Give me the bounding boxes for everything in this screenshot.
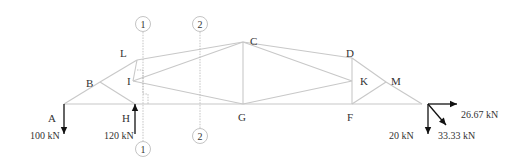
reaction-H-label: 120 kN: [104, 130, 134, 141]
member-I-G: [133, 81, 243, 104]
truss-diagram: 1122 100 kN120 kN33.33 kN26.67 kN20 kN A…: [0, 0, 528, 159]
node-label-M: M: [391, 75, 401, 87]
member-C-K: [243, 42, 352, 81]
node-label-H: H: [122, 112, 130, 124]
member-B-L: [100, 60, 137, 82]
node-label-B: B: [86, 77, 93, 89]
node-label-F: F: [347, 111, 353, 123]
node-label-A: A: [48, 112, 56, 124]
member-F-M: [352, 82, 386, 104]
member-C-D: [243, 42, 352, 58]
member-D-M: [352, 58, 386, 82]
section-label: 2: [198, 131, 203, 142]
node-label-D: D: [346, 47, 354, 59]
node-label-K: K: [360, 75, 368, 87]
member-I-C: [133, 42, 243, 81]
section-label: 1: [141, 144, 146, 155]
load-R-horizontal-label: 26.67 kN: [461, 109, 498, 120]
node-label-I: I: [127, 75, 131, 87]
section-cuts: 1122: [136, 17, 208, 157]
load-A-label: 100 kN: [30, 130, 60, 141]
truss-members: [64, 42, 422, 104]
node-label-G: G: [238, 111, 246, 123]
arrowhead-icon: [425, 127, 431, 134]
arrowhead-icon: [450, 101, 457, 107]
member-L-I: [133, 60, 137, 81]
member-G-K: [243, 81, 352, 104]
section-label: 2: [198, 19, 203, 30]
arrowhead-icon: [61, 127, 67, 134]
member-A-B: [64, 82, 100, 104]
section-label: 1: [141, 19, 146, 30]
section-cut-helper: [137, 70, 148, 104]
member-L-C: [137, 42, 243, 60]
node-label-L: L: [120, 47, 127, 59]
arrowhead-icon: [132, 104, 138, 111]
load-R-resultant-label: 33.33 kN: [438, 130, 475, 141]
loads: 100 kN120 kN33.33 kN26.67 kN20 kN: [30, 101, 498, 141]
load-R-vertical-label: 20 kN: [389, 130, 414, 141]
node-label-C: C: [250, 35, 257, 47]
